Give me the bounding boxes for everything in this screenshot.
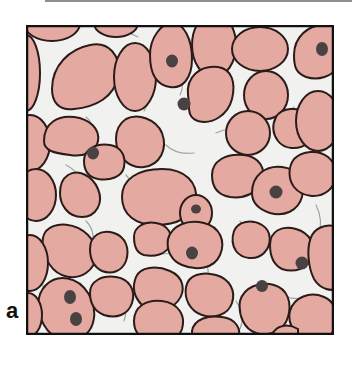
panel-label: a	[6, 300, 18, 322]
top-rule	[45, 0, 352, 2]
cell-illustration	[26, 25, 334, 335]
figure-panel	[26, 25, 334, 335]
